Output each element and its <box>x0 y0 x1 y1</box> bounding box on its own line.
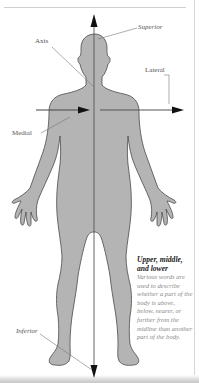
superior-leader <box>98 28 137 39</box>
caption-box: Upper, middle, and lower Various words a… <box>137 255 193 342</box>
medial-label: Medial <box>12 130 32 137</box>
lateral-leader <box>164 75 169 104</box>
superior-arrow-head <box>91 14 98 27</box>
inferior-label: Inferior <box>16 328 38 335</box>
superior-label: Superior <box>138 24 163 31</box>
inferior-arrow-head <box>91 365 98 378</box>
caption-title: Upper, middle, and lower <box>137 255 193 273</box>
lateral-label: Lateral <box>145 67 165 74</box>
diagram-page: Superior Axis Lateral Medial Inferior Up… <box>0 0 199 383</box>
axis-label: Axis <box>35 38 48 45</box>
caption-body: Various words are used to describe wheth… <box>137 273 193 342</box>
